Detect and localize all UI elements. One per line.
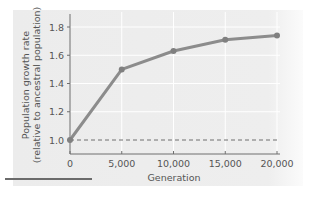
- x-tick-label: 5,000: [108, 158, 135, 169]
- x-tick-label: 15,000: [209, 158, 242, 169]
- y-tick-label: 1.6: [49, 50, 64, 61]
- y-tick-label: 1.8: [49, 22, 64, 33]
- y-tick-label: 1.4: [49, 78, 64, 89]
- data-point: [171, 48, 177, 54]
- data-point: [274, 32, 280, 38]
- x-tick-label: 0: [67, 158, 73, 169]
- line-chart: 1.01.21.41.61.805,00010,00015,00020,000 …: [0, 0, 310, 199]
- data-point: [222, 37, 228, 43]
- x-tick-label: 20,000: [260, 158, 293, 169]
- data-point: [67, 137, 73, 143]
- y-axis-title-line-1: Population growth rate: [20, 31, 31, 139]
- x-tick-label: 10,000: [157, 158, 190, 169]
- y-axis-title-line-2: (relative to ancestral population): [31, 7, 42, 163]
- footnote-rule: [5, 178, 92, 180]
- y-tick-label: 1.2: [49, 106, 64, 117]
- x-axis-title: Generation: [148, 172, 201, 183]
- y-tick-label: 1.0: [49, 135, 64, 146]
- data-point: [119, 66, 125, 72]
